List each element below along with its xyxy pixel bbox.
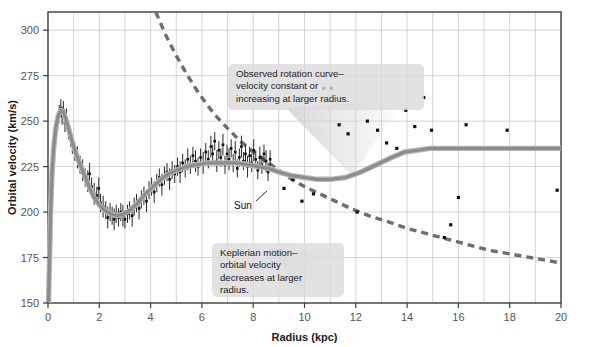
y-axis-title: Orbital velocity (km/s) bbox=[6, 100, 18, 215]
data-point bbox=[234, 151, 237, 154]
data-point bbox=[443, 236, 446, 239]
data-point bbox=[236, 167, 239, 170]
data-point bbox=[430, 129, 433, 132]
data-point bbox=[211, 153, 214, 156]
y-tick-label: 300 bbox=[21, 24, 39, 36]
data-point bbox=[88, 173, 91, 176]
x-tick-label: 18 bbox=[504, 311, 516, 323]
data-point bbox=[457, 196, 460, 199]
x-tick-label: 8 bbox=[250, 311, 256, 323]
x-tick-label: 6 bbox=[199, 311, 205, 323]
data-point bbox=[244, 153, 247, 156]
data-point bbox=[204, 151, 207, 154]
data-point bbox=[254, 158, 257, 161]
x-tick-label: 20 bbox=[555, 311, 567, 323]
y-tick-label: 275 bbox=[21, 70, 39, 82]
data-point bbox=[238, 156, 241, 159]
x-tick-label: 14 bbox=[401, 311, 413, 323]
data-point bbox=[338, 123, 341, 126]
data-point bbox=[282, 187, 285, 190]
chart-canvas: Sun Observed rotation curve–velocity con… bbox=[0, 0, 601, 347]
sun-label: Sun bbox=[234, 200, 252, 211]
y-tick-label: 225 bbox=[21, 161, 39, 173]
annotation-line: decreases at larger bbox=[220, 272, 303, 283]
data-point bbox=[376, 129, 379, 132]
data-point bbox=[312, 192, 315, 195]
data-point bbox=[385, 141, 388, 144]
x-tick-label: 2 bbox=[96, 311, 102, 323]
data-point bbox=[131, 214, 134, 217]
data-point bbox=[113, 218, 116, 221]
data-point bbox=[248, 154, 251, 157]
data-point bbox=[355, 210, 358, 213]
data-point bbox=[226, 153, 229, 156]
annotation-line: Keplerian motion– bbox=[220, 247, 298, 258]
data-point bbox=[161, 183, 164, 186]
observed-rotation-annotation: Observed rotation curve–velocity constan… bbox=[228, 64, 424, 110]
data-point bbox=[506, 129, 509, 132]
data-point bbox=[153, 191, 156, 194]
x-tick-label: 12 bbox=[350, 311, 362, 323]
rotation-curve-figure: Sun Observed rotation curve–velocity con… bbox=[0, 0, 601, 347]
x-axis-title: Radius (kpc) bbox=[271, 331, 337, 343]
data-point bbox=[168, 178, 171, 181]
data-point bbox=[106, 216, 109, 219]
data-point bbox=[228, 158, 231, 161]
data-point bbox=[252, 149, 255, 152]
data-point bbox=[124, 218, 127, 221]
y-tick-label: 150 bbox=[21, 297, 39, 309]
data-point bbox=[194, 160, 197, 163]
data-point bbox=[181, 162, 184, 165]
y-tick-label: 200 bbox=[21, 206, 39, 218]
data-point bbox=[269, 158, 272, 161]
keplerian-motion-annotation: Keplerian motion–orbital velocitydecreas… bbox=[212, 243, 344, 297]
annotation-line: radius. bbox=[220, 284, 249, 295]
data-point bbox=[192, 154, 195, 157]
data-point bbox=[464, 123, 467, 126]
data-point bbox=[395, 147, 398, 150]
y-tick-label: 175 bbox=[21, 252, 39, 264]
data-point bbox=[300, 200, 303, 203]
data-point bbox=[222, 143, 225, 146]
y-tick-label: 250 bbox=[21, 115, 39, 127]
data-point bbox=[240, 145, 243, 148]
data-point bbox=[265, 160, 268, 163]
data-point bbox=[210, 145, 213, 148]
data-point bbox=[556, 189, 559, 192]
data-point bbox=[138, 207, 141, 210]
data-point bbox=[199, 156, 202, 159]
data-point bbox=[145, 200, 148, 203]
annotation-line: increasing at larger radius. bbox=[236, 93, 349, 104]
data-point bbox=[366, 120, 369, 123]
x-tick-label: 16 bbox=[452, 311, 464, 323]
annotation-line: orbital velocity bbox=[220, 259, 281, 270]
data-point bbox=[413, 125, 416, 128]
data-point bbox=[213, 140, 216, 143]
x-tick-label: 10 bbox=[298, 311, 310, 323]
data-point bbox=[97, 187, 100, 190]
data-point bbox=[207, 158, 210, 161]
data-point bbox=[230, 147, 233, 150]
annotation-line: Observed rotation curve– bbox=[236, 68, 344, 79]
x-tick-label: 0 bbox=[45, 311, 51, 323]
data-point bbox=[186, 158, 189, 161]
data-point bbox=[259, 156, 262, 159]
data-point bbox=[220, 156, 223, 159]
annotation-line: velocity constant or bbox=[236, 80, 319, 91]
data-point bbox=[263, 153, 266, 156]
data-point bbox=[218, 149, 221, 152]
data-point bbox=[449, 223, 452, 226]
x-tick-label: 4 bbox=[148, 311, 154, 323]
data-point bbox=[347, 132, 350, 135]
